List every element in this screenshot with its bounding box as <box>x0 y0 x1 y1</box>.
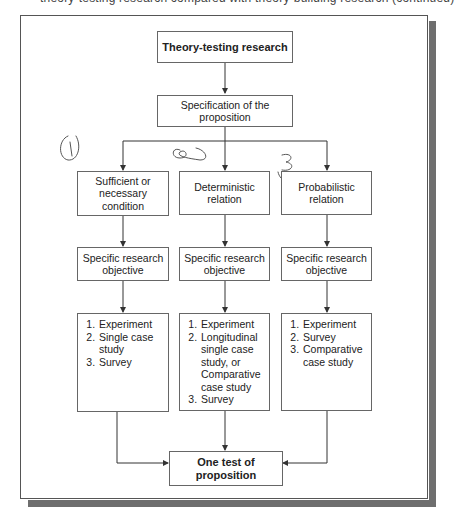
condition-box-deterministic: Deterministic relation <box>179 171 270 215</box>
method-item: Comparative case study <box>302 343 371 368</box>
one-test-of-proposition-box: One test of proposition <box>169 451 283 486</box>
handwritten-2-annotation <box>173 148 206 160</box>
methods-list-1: Experiment Single case study Survey <box>84 318 168 368</box>
methods-list-2: Experiment Longitudinal single case stud… <box>186 318 269 406</box>
method-item: Survey <box>200 393 269 406</box>
method-item: Survey <box>302 331 371 344</box>
handwritten-1-annotation <box>61 136 79 160</box>
method-item: Experiment <box>98 318 168 331</box>
method-item: Experiment <box>302 318 371 331</box>
theory-testing-research-box: Theory-testing research <box>157 31 293 63</box>
method-item: Single case study <box>98 331 168 356</box>
specification-box: Specification of the proposition <box>157 95 293 127</box>
method-item: Survey <box>98 356 168 369</box>
methods-box-2: Experiment Longitudinal single case stud… <box>179 313 270 411</box>
condition-box-sufficient: Sufficient or necessary condition <box>77 171 169 216</box>
methods-box-3: Experiment Survey Comparative case study <box>281 313 372 411</box>
condition-box-probabilistic: Probabilistic relation <box>281 171 372 215</box>
method-item: Longitudinal single case study, or Compa… <box>200 331 269 394</box>
methods-box-1: Experiment Single case study Survey <box>77 313 169 412</box>
method-item: Experiment <box>200 318 269 331</box>
methods-list-3: Experiment Survey Comparative case study <box>288 318 371 368</box>
objective-box-2: Specific research objective <box>179 247 270 281</box>
objective-box-1: Specific research objective <box>77 247 169 281</box>
objective-box-3: Specific research objective <box>281 247 372 281</box>
